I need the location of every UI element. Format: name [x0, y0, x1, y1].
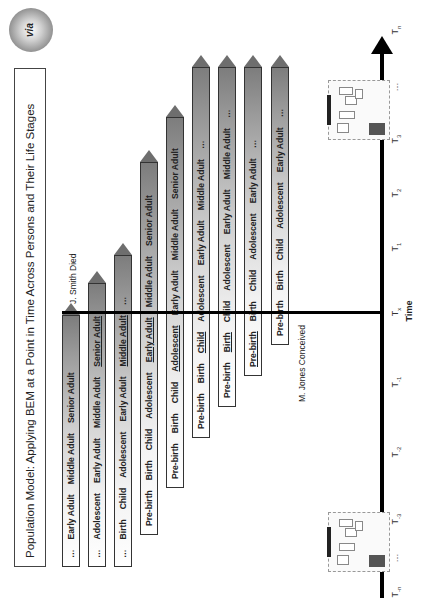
lifeline-arrow-tip-icon — [114, 243, 132, 255]
time-tick-label: T-3 — [390, 504, 402, 534]
life-stage: Middle Adult — [196, 159, 206, 210]
time-tick-label: T1 — [390, 232, 402, 262]
person-lifeline-bar: Pre-birthBirthChildAdolescentEarly Adult… — [192, 55, 210, 438]
lifeline-arrow-tip-icon — [166, 105, 184, 117]
life-stage: Middle Adult — [92, 377, 102, 428]
current-life-stage: Early Adult — [144, 317, 154, 362]
bem-diagram-thumbnail-right — [328, 80, 390, 140]
time-axis-label: Time — [404, 296, 414, 326]
current-life-stage: Pre-birth — [248, 331, 258, 367]
life-stage: Birth — [170, 413, 180, 433]
lifeline-arrow-tip-icon — [218, 55, 236, 67]
current-life-stage: Senior Adult — [92, 316, 102, 367]
life-stage: Early Adult — [92, 438, 102, 483]
lifeline-body: Pre-birthBirthChildAdolescentEarly Adult… — [192, 67, 210, 438]
lifeline-body: Pre-birthBirthChildAdolescentEarly Adult… — [271, 67, 289, 345]
via-logo: via — [9, 8, 53, 52]
tick-base: … — [390, 554, 400, 563]
life-stage: Pre-birth — [170, 443, 180, 479]
current-time-marker-line — [62, 311, 382, 314]
life-stage: Pre-birth — [222, 362, 232, 398]
life-stage: Pre-birth — [144, 490, 154, 526]
time-tick-label: Tn — [390, 15, 402, 45]
current-life-stage: Middle Adult — [118, 315, 128, 366]
tick-subscript: -2 — [396, 447, 402, 452]
time-tick-label: … — [390, 543, 402, 573]
bem-diagram-thumbnail-left — [328, 512, 390, 572]
person-lifeline-bar: Pre-birthBirthChildAdolescentEarly Adult… — [140, 150, 158, 535]
tick-base: T — [390, 519, 400, 525]
tick-base: T — [390, 592, 400, 598]
life-stage: Adolescent — [222, 244, 232, 290]
life-stage: Middle Adult — [144, 256, 154, 307]
life-stage: … — [118, 549, 128, 558]
life-stage: … — [196, 140, 206, 149]
life-stage: Birth — [275, 270, 285, 290]
life-stage: Senior Adult — [66, 372, 76, 423]
life-stage: Middle Adult — [222, 128, 232, 179]
lifeline-body: …AdolescentEarly AdultMiddle AdultSenior… — [88, 283, 106, 567]
tick-base: T — [390, 29, 400, 35]
life-stage: Adolescent — [248, 213, 258, 259]
life-stage: … — [248, 140, 258, 149]
tick-subscript: -3 — [396, 514, 402, 519]
life-stage: Early Adult — [196, 220, 206, 265]
event-death-label: J. Smith Died — [68, 253, 78, 304]
life-stage: Child — [275, 239, 285, 260]
tick-subscript: 2 — [396, 189, 402, 192]
population-model-slide: Population Model: Applying BEM at a Poin… — [0, 0, 430, 600]
life-stage: Senior Adult — [170, 148, 180, 199]
time-tick-label: T-n — [390, 577, 402, 600]
life-stage: Adolescent — [144, 372, 154, 418]
lifeline-arrow-tip-icon — [140, 150, 158, 162]
life-stage: Pre-birth — [196, 393, 206, 429]
tick-subscript: 3 — [396, 135, 402, 138]
current-life-stage: Birth — [222, 332, 232, 352]
person-lifeline-bar: Pre-birthBirthChildAdolescentEarly Adult… — [218, 55, 236, 407]
time-tick-label: T2 — [390, 178, 402, 208]
lifeline-body: Pre-birthBirthChildAdolescentEarly Adult… — [166, 117, 184, 488]
life-stage: … — [222, 109, 232, 118]
lifeline-body: …Early AdultMiddle AdultSenior Adult — [62, 315, 80, 567]
person-lifeline-bar: Pre-birthBirthChildAdolescentEarly Adult… — [166, 105, 184, 488]
lifeline-body: Pre-birthBirthChildAdolescentEarly Adult… — [218, 67, 236, 407]
life-stage: Middle Adult — [66, 433, 76, 484]
slide-title: Population Model: Applying BEM at a Poin… — [14, 68, 46, 567]
life-stage: Birth — [144, 460, 154, 480]
person-lifeline-bar: Pre-birthBirthChildAdolescentEarly Adult… — [244, 55, 262, 376]
life-stage: Adolescent — [92, 493, 102, 539]
life-stage: … — [275, 109, 285, 118]
life-stage: Early Adult — [275, 127, 285, 172]
life-stage: Adolescent — [275, 182, 285, 228]
event-conception-label: M. Jones Conceived — [297, 325, 307, 402]
lifeline-arrow-tip-icon — [88, 271, 106, 283]
time-tick-label: … — [390, 72, 402, 102]
time-tick-label: T-1 — [390, 367, 402, 397]
life-stage: Birth — [196, 363, 206, 383]
thumbnail-header-bar — [327, 527, 331, 557]
tick-base: T — [390, 246, 400, 252]
life-stage: Early Adult — [170, 270, 180, 315]
time-tick-label: Tx — [390, 297, 402, 327]
life-stage: Adolescent — [118, 432, 128, 478]
current-life-stage: Child — [196, 332, 206, 353]
life-stage: Senior Adult — [144, 195, 154, 246]
person-lifeline-bar: …BirthChildAdolescentEarly AdultMiddle A… — [114, 243, 132, 567]
tick-subscript: x — [396, 308, 402, 311]
lifeline-body: …BirthChildAdolescentEarly AdultMiddle A… — [114, 255, 132, 567]
tick-subscript: -n — [396, 587, 402, 592]
lifeline-body: Pre-birthBirthChildAdolescentEarly Adult… — [140, 162, 158, 535]
tick-base: T — [390, 452, 400, 458]
person-lifeline-bar: …AdolescentEarly AdultMiddle AdultSenior… — [88, 271, 106, 567]
life-stage: … — [92, 549, 102, 558]
life-stage: … — [118, 297, 128, 306]
tick-subscript: n — [396, 26, 402, 29]
time-tick-label: T-2 — [390, 437, 402, 467]
thumbnail-header-bar — [327, 95, 331, 125]
lifeline-arrow-tip-icon — [244, 55, 262, 67]
life-stage: Birth — [118, 519, 128, 539]
person-lifeline-bar: Pre-birthBirthChildAdolescentEarly Adult… — [271, 55, 289, 345]
lifeline-arrow-tip-icon — [271, 55, 289, 67]
tick-subscript: -1 — [396, 377, 402, 382]
life-stage: Child — [144, 429, 154, 450]
